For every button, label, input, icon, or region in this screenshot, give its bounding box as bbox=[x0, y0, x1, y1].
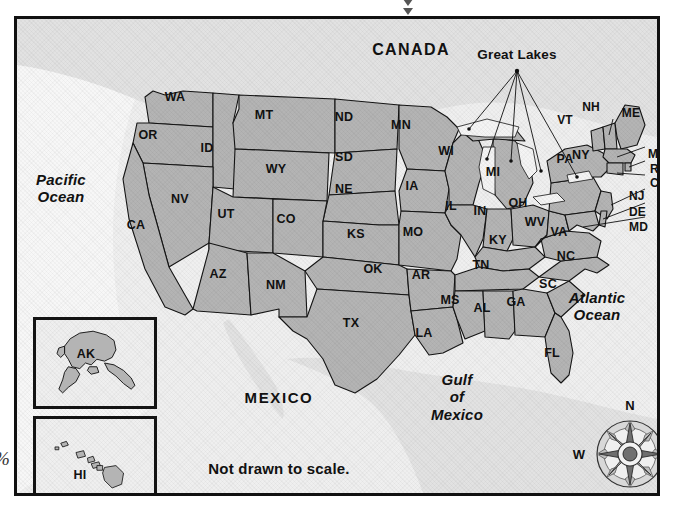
state-label-IN: IN bbox=[474, 205, 487, 218]
state-label-NY: NY bbox=[572, 149, 590, 162]
state-label-MN: MN bbox=[391, 119, 411, 132]
compass-geometry bbox=[589, 413, 660, 495]
state-label-MT: MT bbox=[255, 109, 273, 122]
pacific-line-2: Ocean bbox=[36, 189, 86, 206]
crop-marker-arrow-upper bbox=[403, 0, 413, 6]
state-label-TN: TN bbox=[472, 259, 489, 272]
state-CO bbox=[273, 199, 327, 257]
inset-label-AK: AK bbox=[77, 348, 95, 361]
state-label-MA: MA bbox=[648, 148, 660, 160]
state-label-NM: NM bbox=[266, 279, 286, 292]
state-label-LA: LA bbox=[415, 327, 432, 340]
state-label-FL: FL bbox=[544, 347, 560, 360]
state-label-ID: ID bbox=[201, 142, 214, 155]
label-pacific-ocean: Pacific Ocean bbox=[36, 172, 86, 206]
label-mexico: MEXICO bbox=[245, 390, 314, 405]
state-label-CA: CA bbox=[127, 219, 145, 232]
state-label-MI: MI bbox=[486, 166, 500, 179]
gulf-line-1: Gulf bbox=[431, 371, 483, 388]
state-label-UT: UT bbox=[217, 208, 234, 221]
compass-rose: N S E W bbox=[589, 413, 660, 495]
state-ND bbox=[335, 99, 399, 153]
state-label-MS: MS bbox=[440, 294, 459, 307]
label-canada: CANADA bbox=[372, 42, 450, 58]
compass-north-label: N bbox=[625, 398, 634, 413]
state-label-MO: MO bbox=[403, 226, 424, 239]
state-label-VA: VA bbox=[551, 226, 568, 239]
state-label-ME: ME bbox=[622, 107, 640, 119]
state-label-IA: IA bbox=[406, 180, 419, 193]
state-MD bbox=[565, 211, 599, 231]
state-label-NJ: NJ bbox=[629, 190, 645, 202]
pacific-line-1: Pacific bbox=[36, 172, 86, 189]
state-label-AL: AL bbox=[473, 302, 490, 315]
state-label-MD: MD bbox=[629, 221, 648, 233]
state-label-ND: ND bbox=[335, 111, 353, 124]
state-label-CO: CO bbox=[276, 213, 295, 226]
lake-superior bbox=[457, 119, 519, 137]
inset-alaska: AK bbox=[33, 317, 157, 409]
state-label-IL: IL bbox=[445, 200, 457, 213]
label-great-lakes: Great Lakes bbox=[477, 48, 557, 62]
alaska-geometry bbox=[36, 320, 154, 406]
gulf-line-3: Mexico bbox=[431, 406, 483, 423]
state-label-OR: OR bbox=[138, 129, 157, 142]
partial-percent-glyph: % bbox=[0, 448, 10, 470]
state-label-NC: NC bbox=[557, 250, 575, 263]
label-not-drawn-to-scale: Not drawn to scale. bbox=[208, 461, 349, 476]
state-label-SC: SC bbox=[539, 278, 557, 291]
state-label-VT: VT bbox=[557, 114, 573, 126]
compass-west-label: W bbox=[573, 447, 585, 462]
state-label-NE: NE bbox=[335, 183, 353, 196]
state-label-WV: WV bbox=[525, 216, 546, 229]
state-label-OH: OH bbox=[508, 197, 527, 210]
state-label-DE: DE bbox=[629, 206, 646, 218]
map-frame: CANADA MEXICO Great Lakes Pacific Ocean … bbox=[14, 16, 660, 496]
state-label-SD: SD bbox=[335, 151, 353, 164]
atlantic-line-1: Atlantic bbox=[569, 290, 626, 307]
inset-hawaii: HI bbox=[33, 416, 157, 496]
gulf-line-2: of bbox=[431, 388, 483, 405]
hawaii-geometry bbox=[36, 419, 154, 496]
label-gulf-of-mexico: Gulf of Mexico bbox=[431, 371, 483, 423]
state-label-KY: KY bbox=[489, 234, 507, 247]
atlantic-line-2: Ocean bbox=[569, 307, 626, 324]
crop-marker-arrow-lower bbox=[403, 8, 413, 15]
state-label-AZ: AZ bbox=[209, 268, 226, 281]
state-label-KS: KS bbox=[347, 228, 365, 241]
label-atlantic-ocean: Atlantic Ocean bbox=[569, 290, 626, 324]
state-label-NH: NH bbox=[582, 101, 600, 113]
state-label-WI: WI bbox=[438, 145, 454, 158]
state-NE bbox=[323, 191, 399, 225]
state-label-WY: WY bbox=[266, 163, 287, 176]
state-label-GA: GA bbox=[506, 296, 525, 309]
state-MT bbox=[233, 95, 335, 153]
state-label-CT: CT bbox=[650, 177, 660, 189]
state-label-AR: AR bbox=[412, 269, 430, 282]
state-label-OK: OK bbox=[363, 263, 382, 276]
state-label-RI: RI bbox=[650, 163, 660, 175]
compass-south-label: S bbox=[626, 496, 635, 497]
map-figure: % bbox=[0, 0, 678, 513]
state-NH bbox=[603, 123, 617, 149]
state-TN bbox=[455, 267, 539, 291]
state-label-NV: NV bbox=[171, 193, 189, 206]
state-label-PA: PA bbox=[557, 153, 574, 166]
state-label-WA: WA bbox=[165, 91, 186, 104]
inset-label-HI: HI bbox=[74, 469, 87, 482]
state-label-TX: TX bbox=[343, 317, 359, 330]
